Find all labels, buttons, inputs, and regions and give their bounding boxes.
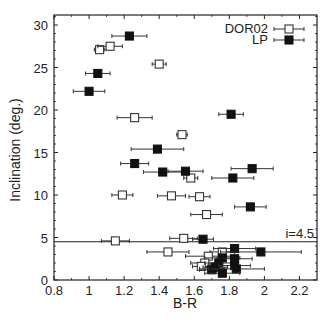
y-tick-label: 15 [34, 146, 48, 161]
filled-square-marker [218, 269, 226, 277]
open-square-marker [118, 191, 126, 199]
legend: DOR02LP [225, 21, 304, 47]
y-tick-label: 30 [34, 18, 48, 33]
open-square-marker [155, 60, 163, 68]
x-tick-label: 1.4 [150, 283, 168, 298]
filled-square-marker [246, 203, 254, 211]
filled-square-marker [94, 69, 102, 77]
filled-square-marker [208, 266, 216, 274]
filled-square-marker [159, 168, 167, 176]
filled-square-marker [153, 145, 161, 153]
legend-open-square-icon [285, 25, 293, 33]
filled-square-marker [227, 110, 235, 118]
filled-square-marker [131, 160, 139, 168]
open-square-marker [106, 42, 114, 50]
filled-square-marker [199, 235, 207, 243]
y-tick-label: 5 [41, 231, 48, 246]
legend-filled-square-icon [285, 36, 293, 44]
open-square-marker [164, 248, 172, 256]
open-square-marker [131, 114, 139, 122]
x-tick-label: 2.2 [290, 283, 308, 298]
open-square-marker [111, 237, 119, 245]
filled-square-marker [232, 265, 240, 273]
open-square-marker [178, 131, 186, 139]
y-axis-title: Inclination (deg.) [7, 98, 23, 202]
open-square-marker [180, 234, 188, 242]
filled-square-marker [85, 87, 93, 95]
y-tick-label: 25 [34, 61, 48, 76]
x-tick-label: 1 [85, 283, 92, 298]
open-square-marker [167, 192, 175, 200]
open-square-marker [96, 46, 104, 54]
y-tick-label: 10 [34, 188, 48, 203]
filled-square-marker [248, 165, 256, 173]
legend-label-lp: LP [252, 32, 268, 47]
axis-ticks: 0.811.21.41.61.822.2051015202530 [34, 15, 317, 298]
y-tick-label: 20 [34, 103, 48, 118]
open-square-marker [196, 193, 204, 201]
filled-square-marker [125, 32, 133, 40]
x-axis-title: B-R [173, 295, 197, 311]
x-tick-label: 1.8 [220, 283, 238, 298]
filled-square-marker [229, 174, 237, 182]
x-tick-label: 1.2 [115, 283, 133, 298]
x-tick-label: 2 [261, 283, 268, 298]
y-tick-label: 0 [41, 273, 48, 288]
open-square-marker [203, 211, 211, 219]
data-series [73, 32, 301, 277]
threshold-label: i=4.5 [285, 226, 314, 241]
scatter-chart: 0.811.21.41.61.822.2051015202530 i=4.5 D… [0, 0, 333, 327]
filled-square-marker [231, 245, 239, 253]
filled-square-marker [257, 248, 265, 256]
filled-square-marker [182, 167, 190, 175]
